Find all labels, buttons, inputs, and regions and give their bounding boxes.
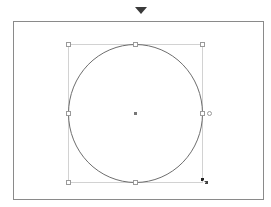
- drawing-canvas[interactable]: [0, 0, 271, 207]
- resize-handle-bottom-left[interactable]: [67, 181, 71, 185]
- resize-handle-top[interactable]: [134, 43, 138, 47]
- resize-handle-right[interactable]: [201, 112, 205, 116]
- resize-handle-top-right[interactable]: [201, 43, 205, 47]
- rotation-handle[interactable]: [208, 112, 212, 116]
- center-point: [134, 112, 137, 115]
- resize-handle-bottom[interactable]: [134, 181, 138, 185]
- resize-handle-top-left[interactable]: [67, 43, 71, 47]
- resize-cursor-icon: [201, 178, 208, 184]
- resize-handle-left[interactable]: [67, 112, 71, 116]
